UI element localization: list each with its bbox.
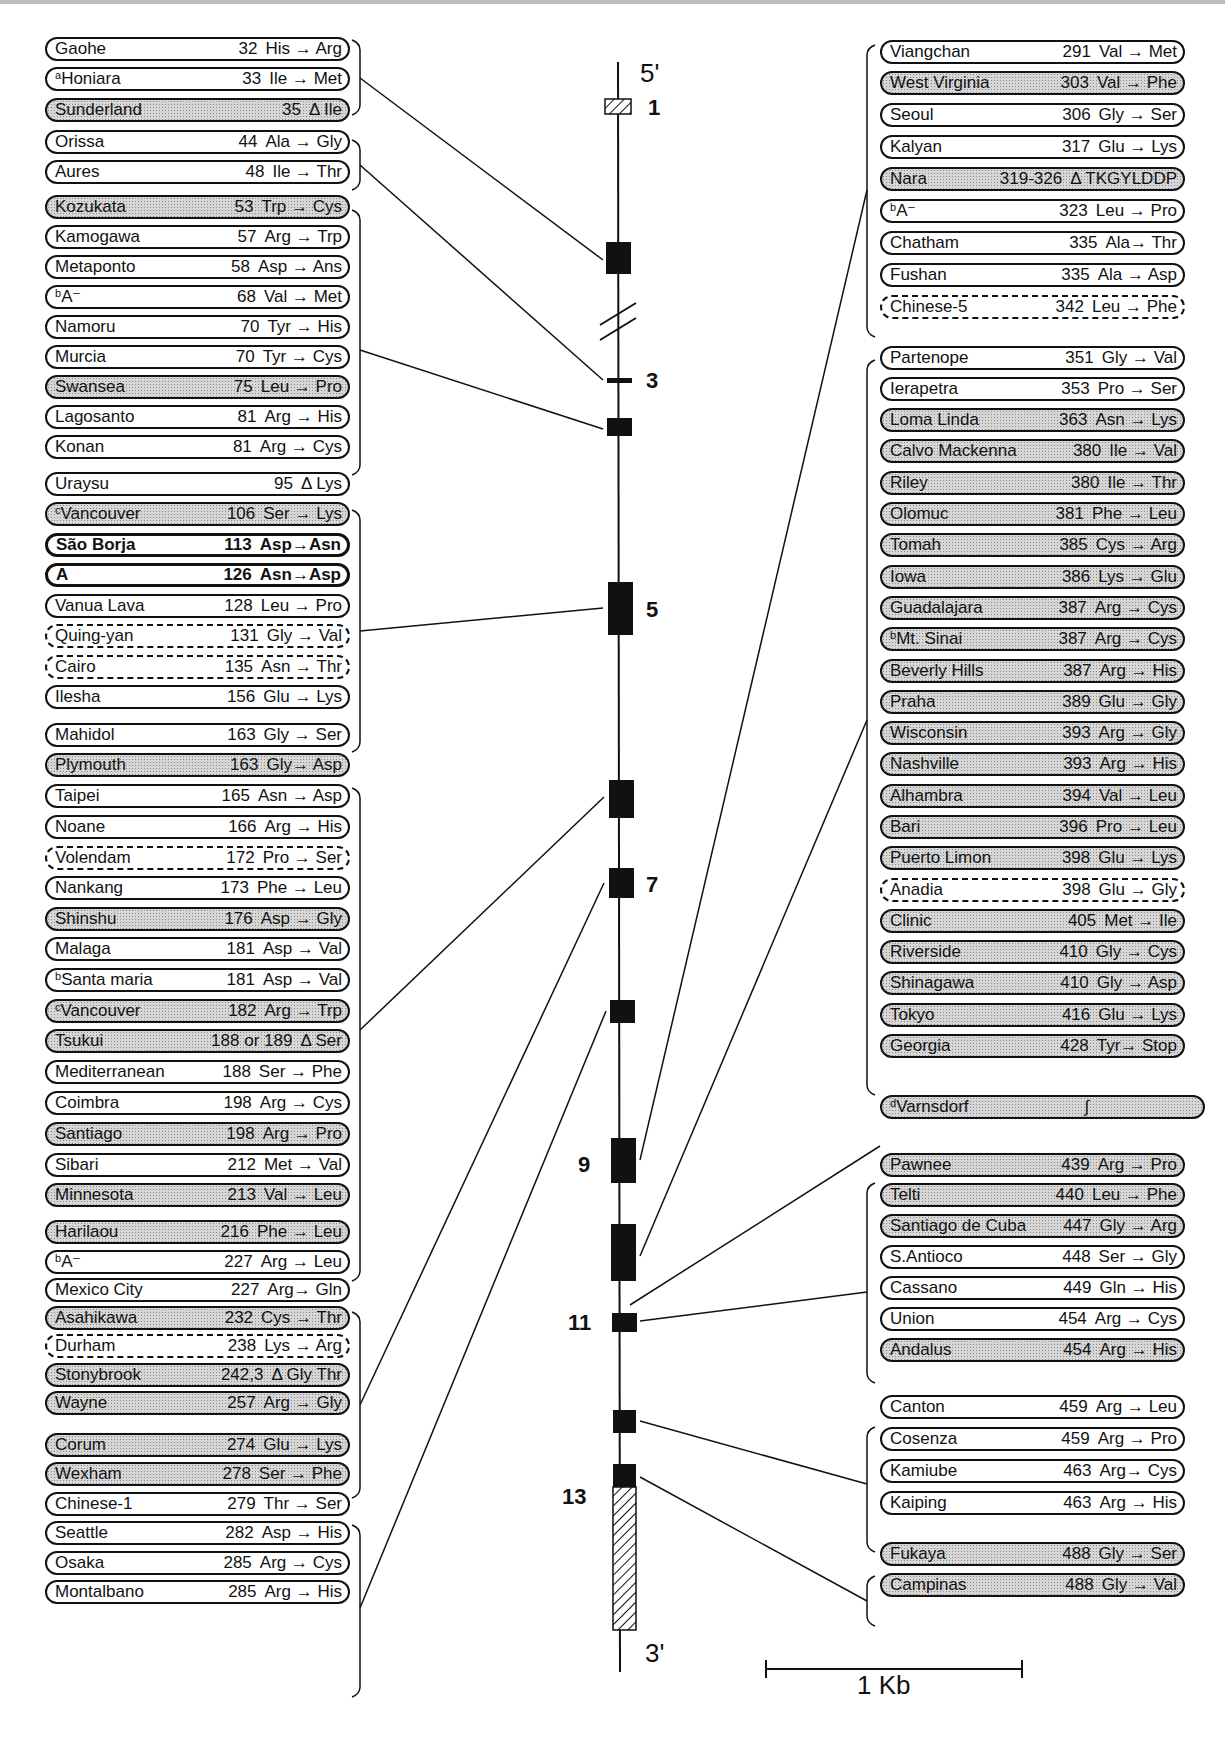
- variant-pill: Volendam172Pro → Ser: [45, 846, 350, 870]
- footnote-marker: b: [55, 970, 61, 982]
- variant-name-text: Taipei: [55, 786, 99, 805]
- variant-pill: Nankang173Phe → Leu: [45, 876, 350, 900]
- footnote-marker: b: [890, 201, 896, 213]
- variant-pill: Chinese-5342Leu → Phe: [880, 295, 1185, 319]
- variant-pill: Cosenza459Arg → Pro: [880, 1427, 1185, 1451]
- variant-name: Olomuc: [890, 504, 1056, 524]
- variant-name-text: Namoru: [55, 317, 115, 336]
- amino-acid-change: Tyr→ Stop: [1097, 1036, 1177, 1056]
- variant-name-text: Santa maria: [61, 970, 153, 989]
- variant-name-text: Olomuc: [890, 504, 949, 523]
- variant-name-text: Malaga: [55, 939, 111, 958]
- variant-name-text: Tokyo: [890, 1005, 934, 1024]
- codon-position: 459: [1059, 1397, 1087, 1417]
- variant-pill: Durham238Lys → Arg: [45, 1334, 350, 1358]
- amino-acid-change: Asn → Lys: [1095, 410, 1177, 430]
- amino-acid-change: Lys → Glu: [1098, 567, 1177, 587]
- variant-name-text: Fushan: [890, 265, 947, 284]
- variant-name: cVancouver: [55, 504, 227, 524]
- variant-name-text: Riverside: [890, 942, 961, 961]
- variant-name-text: Partenope: [890, 348, 968, 367]
- variant-name: Iowa: [890, 567, 1062, 587]
- footnote-marker: c: [55, 504, 61, 516]
- amino-acid-change: Arg → Cys: [260, 1553, 342, 1573]
- variant-name: Gaohe: [55, 39, 239, 59]
- variant-name: Ilesha: [55, 687, 227, 707]
- variant-name: Santiago: [55, 1124, 226, 1144]
- variant-pill: S.Antioco448Ser → Gly: [880, 1245, 1185, 1269]
- amino-acid-change: Gly → Ser: [264, 725, 342, 745]
- variant-name: Fushan: [890, 265, 1061, 285]
- variant-name: Plymouth: [55, 755, 230, 775]
- codon-position: 70: [236, 347, 255, 367]
- variant-name: Cairo: [55, 657, 225, 677]
- amino-acid-change: Pro → Leu: [1096, 817, 1177, 837]
- amino-acid-change: Val → Leu: [264, 1185, 342, 1205]
- variant-name: Noane: [55, 817, 228, 837]
- amino-acid-change: Ser → Lys: [263, 504, 342, 524]
- variant-pill: Calvo Mackenna380Ile → Val: [880, 439, 1185, 463]
- variant-name: Anadia: [890, 880, 1062, 900]
- variant-name: Taipei: [55, 786, 222, 806]
- variant-name-text: Iowa: [890, 567, 926, 586]
- variant-pill: West Virginia303Val → Phe: [880, 71, 1185, 95]
- codon-position: 173: [221, 878, 249, 898]
- variant-name-text: A⁻: [61, 1252, 81, 1271]
- codon-position: 386: [1062, 567, 1090, 587]
- amino-acid-change: Arg → Gly: [1099, 723, 1177, 743]
- amino-acid-change: Phe → Leu: [257, 878, 342, 898]
- amino-acid-change: Glu → Lys: [263, 687, 342, 707]
- variant-name: Chatham: [890, 233, 1069, 253]
- variant-pill: Riley380Ile → Thr: [880, 471, 1185, 495]
- variant-name-text: Wexham: [55, 1464, 122, 1483]
- variant-name-text: Mediterranean: [55, 1062, 165, 1081]
- codon-position: 463: [1063, 1461, 1091, 1481]
- codon-position: 95: [274, 474, 293, 494]
- amino-acid-change: Ile → Thr: [1107, 473, 1177, 493]
- variant-pill: Wayne257Arg → Gly: [45, 1391, 350, 1415]
- variant-name: Santiago de Cuba: [890, 1216, 1063, 1236]
- codon-position: 389: [1062, 692, 1090, 712]
- codon-position: 488: [1065, 1575, 1093, 1595]
- variant-name-text: Varnsdorf: [896, 1097, 968, 1116]
- variant-pill: Andalus454Arg → His: [880, 1338, 1185, 1362]
- variant-name: Fukaya: [890, 1544, 1062, 1564]
- variant-name-text: Cassano: [890, 1278, 957, 1297]
- codon-position: 198: [226, 1124, 254, 1144]
- codon-position: 398: [1062, 880, 1090, 900]
- codon-position: 128: [224, 596, 252, 616]
- variant-pill: Tokyo416Glu → Lys: [880, 1003, 1185, 1027]
- variant-name-text: Nankang: [55, 878, 123, 897]
- codon-position: 342: [1056, 297, 1084, 317]
- variant-name-text: Corum: [55, 1435, 106, 1454]
- exon-5: [608, 582, 633, 635]
- variant-pill: Cairo135Asn → Thr: [45, 655, 350, 679]
- variant-name: Canton: [890, 1397, 1059, 1417]
- amino-acid-change: Val → Leu: [1099, 786, 1177, 806]
- codon-position: 335: [1069, 233, 1097, 253]
- variant-pill: Anadia398Glu → Gly: [880, 878, 1185, 902]
- amino-acid-change: Arg → His: [1100, 661, 1177, 681]
- variant-pill: Bari396Pro → Leu: [880, 815, 1185, 839]
- codon-position: 323: [1059, 201, 1087, 221]
- amino-acid-change: Gly → Ser: [1099, 105, 1177, 125]
- footnote-marker: b: [55, 287, 61, 299]
- variant-name-text: Durham: [55, 1336, 115, 1355]
- amino-acid-change: Leu → Phe: [1092, 297, 1177, 317]
- variant-pill: Ilesha156Glu → Lys: [45, 685, 350, 709]
- variant-name-text: Kaiping: [890, 1493, 947, 1512]
- amino-acid-change: Arg → His: [265, 1582, 342, 1602]
- variant-name-text: Konan: [55, 437, 104, 456]
- variant-name: Durham: [55, 1336, 228, 1356]
- variant-name: Osaka: [55, 1553, 223, 1573]
- exon-11: [612, 1313, 637, 1332]
- codon-position: 387: [1058, 629, 1086, 649]
- variant-name-text: Riley: [890, 473, 928, 492]
- variant-name-text: Kozukata: [55, 197, 126, 216]
- variant-pill: Wexham278Ser → Phe: [45, 1462, 350, 1486]
- variant-pill: Metaponto58Asp → Ans: [45, 255, 350, 279]
- amino-acid-change: Gly→ Asp: [266, 755, 342, 775]
- exon-label-11: 11: [568, 1310, 591, 1336]
- variant-name: Beverly Hills: [890, 661, 1063, 681]
- variant-name-text: Puerto Limon: [890, 848, 991, 867]
